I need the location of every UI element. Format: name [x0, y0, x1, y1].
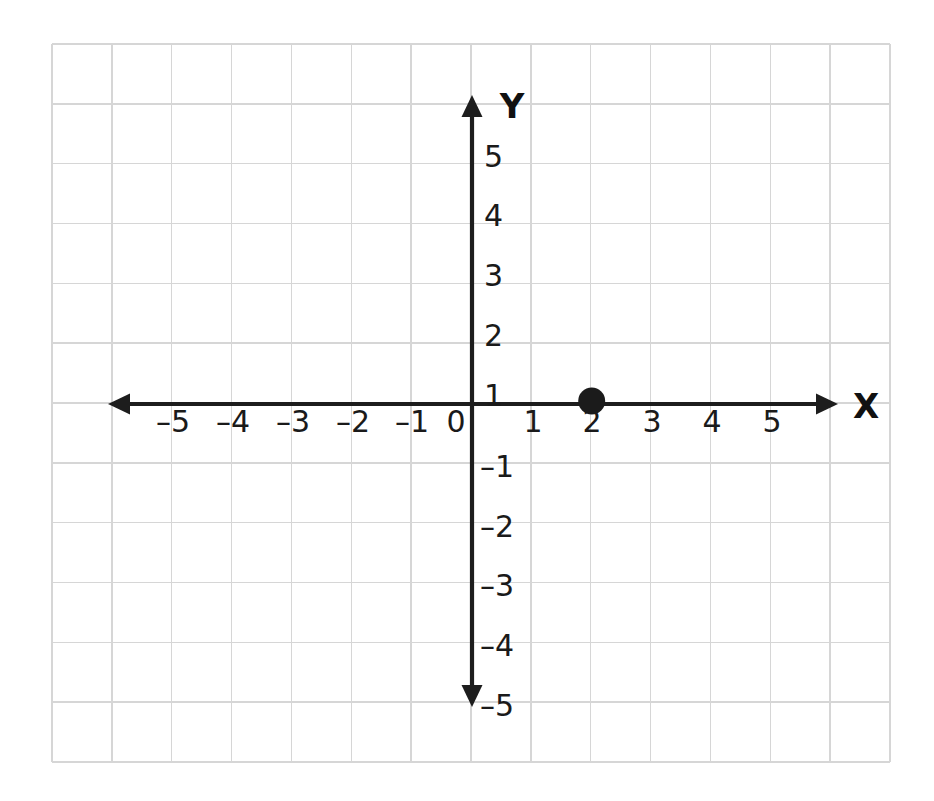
y-tick-label: 1	[484, 378, 503, 413]
coordinate-plane-figure: –5–4–3–2–1012345 54321–1–2–3–4–5 Y X	[0, 0, 934, 801]
x-tick-label: 5	[762, 404, 781, 439]
x-tick-label: –3	[276, 404, 310, 439]
x-tick-label: 4	[702, 404, 721, 439]
y-tick-label: –5	[480, 688, 514, 723]
x-tick-label: –4	[216, 404, 250, 439]
y-tick-label: 5	[484, 139, 503, 174]
coordinate-plane-svg: –5–4–3–2–1012345 54321–1–2–3–4–5 Y X	[0, 0, 934, 801]
x-tick-label: 3	[642, 404, 661, 439]
x-tick-label: 1	[523, 404, 542, 439]
x-tick-label: –1	[395, 404, 429, 439]
y-axis-label: Y	[499, 86, 525, 126]
y-tick-label: –1	[480, 449, 514, 484]
figure-background	[0, 0, 934, 801]
y-tick-label: –3	[480, 568, 514, 603]
plotted-point[interactable]	[578, 388, 605, 415]
x-tick-label: 0	[446, 404, 465, 439]
x-tick-label: –2	[336, 404, 370, 439]
y-tick-label: 3	[484, 258, 503, 293]
y-tick-label: 2	[484, 318, 503, 353]
x-axis-label: X	[853, 386, 879, 426]
y-tick-label: 4	[484, 198, 503, 233]
x-tick-label: –5	[156, 404, 190, 439]
y-tick-label: –2	[480, 509, 514, 544]
data-point-layer	[578, 388, 605, 415]
y-tick-label: –4	[480, 628, 514, 663]
